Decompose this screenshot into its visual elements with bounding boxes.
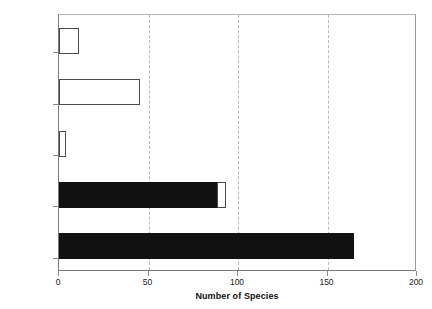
x-axis-label-100: 100 (230, 277, 244, 287)
bar-segment-multiple-white (217, 182, 226, 208)
y-axis-tick-1 (53, 52, 58, 53)
y-axis-tick-3 (53, 155, 58, 156)
x-axis-tick-200 (416, 271, 417, 276)
x-axis-label-200: 200 (409, 277, 423, 287)
y-axis-tick-4 (53, 206, 58, 207)
gridline-50 (149, 15, 150, 270)
plot-area (58, 14, 416, 271)
y-axis-tick-5 (53, 258, 58, 259)
bar-segment-ornamental-white (59, 131, 66, 157)
bar-segment-multiple-black (59, 182, 217, 208)
x-axis-tick-100 (237, 271, 238, 276)
bar-chart-figure: Biocontrol Fisheries Ornamental Multiple… (0, 0, 432, 309)
x-axis-tick-50 (148, 271, 149, 276)
bar-segment-fisheries-white (59, 79, 140, 105)
bar-segment-shipping-black (59, 233, 354, 259)
x-axis-tick-0 (58, 271, 59, 276)
gridline-100 (238, 15, 239, 270)
x-axis-label-50: 50 (143, 277, 152, 287)
y-axis-tick-2 (53, 104, 58, 105)
x-axis-label-0: 0 (56, 277, 61, 287)
x-axis-tick-150 (327, 271, 328, 276)
x-axis-title: Number of Species (58, 291, 416, 301)
gridline-150 (328, 15, 329, 270)
bar-segment-biocontrol-white (59, 28, 79, 54)
x-axis-label-150: 150 (319, 277, 333, 287)
